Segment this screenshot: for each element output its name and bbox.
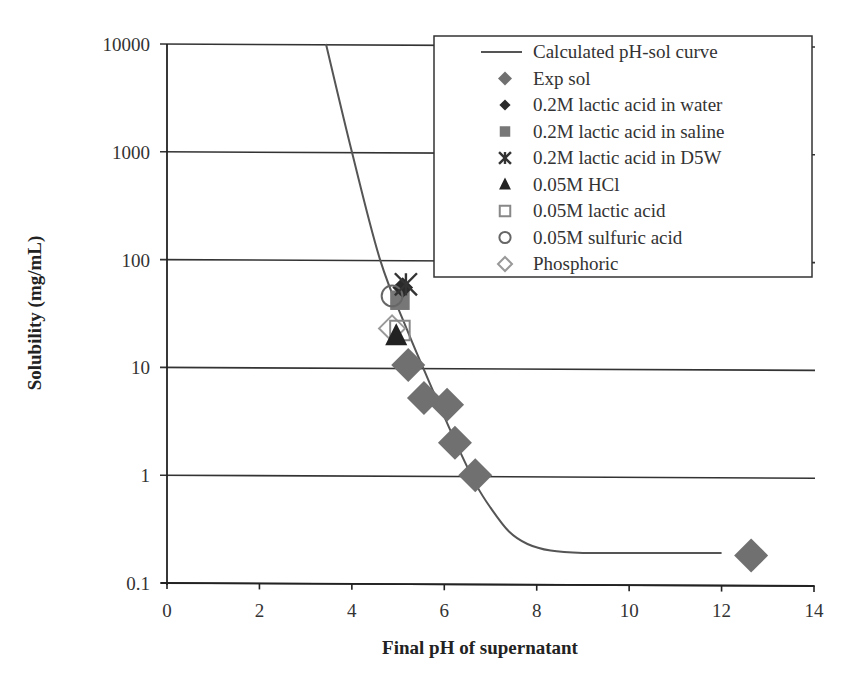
legend-label: 0.05M HCl [533,174,620,195]
square-marker [500,126,511,137]
legend-item: 0.2M lactic acid in saline [500,121,725,142]
x-tick-label: 6 [440,600,450,621]
y-tick-label: 10000 [103,34,151,55]
x-tick-label: 10 [620,600,639,621]
y-tick-label: 1000 [112,142,150,163]
legend: Calculated pH-sol curveExp sol0.2M lacti… [434,36,812,277]
y-axis-title: Solubility (mg/mL) [24,236,46,391]
x-tick-label: 4 [347,600,357,621]
x-tick-label: 12 [712,600,731,621]
diamond-marker [734,538,768,572]
x-tick-label: 14 [805,600,825,621]
legend-label: Calculated pH-sol curve [533,41,718,62]
gridline [160,367,815,370]
legend-item: 0.2M lactic acid in water [499,94,723,115]
y-tick-label: 1 [141,465,151,486]
solubility-chart: 0.1110100100010000 02468101214 Solubilit… [0,0,863,697]
x-axis-title: Final pH of supernatant [382,637,579,658]
y-tick-label: 0.1 [126,573,150,594]
legend-label: 0.05M lactic acid [533,200,666,221]
legend-label: 0.2M lactic acid in saline [533,121,725,142]
legend-label: Phosphoric [533,253,619,274]
x-tick-labels: 02468101214 [162,600,824,621]
x-tick-label: 2 [255,600,265,621]
diamond-marker [438,426,472,460]
x-tick-label: 8 [532,600,542,621]
legend-label: 0.2M lactic acid in water [533,94,723,115]
legend-label: 0.05M sulfuric acid [533,227,683,248]
diamond-marker [391,348,425,382]
y-tick-label: 10 [131,357,150,378]
y-tick-label: 100 [122,250,151,271]
x-tick-label: 0 [162,600,172,621]
data-markers [379,273,768,572]
y-tick-labels: 0.1110100100010000 [103,34,151,594]
legend-label: 0.2M lactic acid in D5W [533,147,721,168]
diamond-marker [458,458,492,492]
legend-label: Exp sol [533,68,591,89]
legend-item: 0.2M lactic acid in D5W [499,147,721,168]
